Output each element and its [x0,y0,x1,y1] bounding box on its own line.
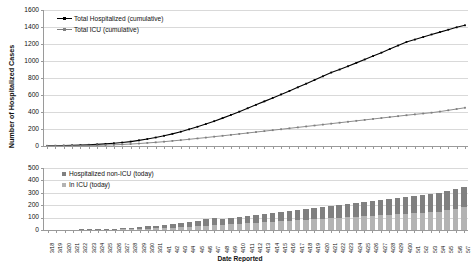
x-tick-mark [73,230,74,233]
stacked-bar [237,217,242,230]
data-point-marker [172,133,174,135]
data-point-marker [280,94,282,96]
legend-label: Total ICU (cumulative) [74,25,139,34]
data-point-marker [247,107,249,109]
bar-segment-non-icu [345,204,350,218]
bar-segment-non-icu [162,225,167,228]
x-tick-mark [289,146,290,149]
x-tick-mark [181,230,182,233]
stacked-bar [378,200,383,230]
bar-segment-in-icu [245,223,250,230]
x-tick-mark [415,146,416,149]
data-point-marker [339,122,341,124]
data-point-marker [355,62,357,64]
x-tick-mark [147,146,148,149]
x-tick-mark [131,230,132,233]
stacked-bar [203,219,208,230]
x-tick-mark [448,146,449,149]
x-tick-mark [364,230,365,233]
bar-segment-non-icu [145,226,150,228]
data-point-marker [456,108,458,110]
y-tick-label: 1000 [7,58,39,65]
x-tick-label: 3/29 [142,243,147,253]
x-tick-label: 3/28 [133,243,138,253]
data-point-marker [397,115,399,117]
stacked-bar [278,212,283,230]
x-tick-mark [331,146,332,149]
x-tick-mark [81,230,82,233]
bar-segment-in-icu [403,214,408,230]
data-point-marker [347,65,349,67]
bar-segment-in-icu [295,220,300,230]
x-tick-mark [140,230,141,233]
data-point-marker [289,90,291,92]
x-tick-mark [172,146,173,149]
bar-segment-in-icu [328,218,333,230]
y-axis-line [43,168,44,230]
x-tick-mark [406,146,407,149]
x-tick-label: 4/25 [366,243,371,253]
x-tick-label: 3/20 [67,243,72,253]
data-point-marker [397,45,399,47]
data-point-marker [213,136,215,138]
x-tick-mark [206,230,207,233]
data-point-marker [263,100,265,102]
bar-segment-non-icu [311,208,316,220]
y-tick-label: 200 [7,202,39,209]
x-tick-label: 4/8 [225,246,230,253]
y-tick-label: 600 [7,92,39,99]
data-point-marker [289,127,291,129]
x-tick-mark [331,230,332,233]
x-tick-mark [114,146,115,149]
bar-segment-non-icu [245,216,250,224]
x-tick-mark [456,230,457,233]
x-tick-mark [97,146,98,149]
x-tick-label: 4/21 [333,243,338,253]
bar-segment-in-icu [361,216,366,230]
x-tick-mark [464,230,465,233]
x-tick-mark [381,230,382,233]
x-tick-mark [264,230,265,233]
stacked-bar [178,223,183,230]
y-tick-label: 500 [7,165,39,172]
x-tick-mark [248,146,249,149]
stacked-bar [320,207,325,230]
x-tick-mark [315,146,316,149]
x-tick-mark [148,230,149,233]
bar-segment-non-icu [153,226,158,228]
x-tick-mark [165,230,166,233]
data-point-marker [138,143,140,145]
data-point-marker [464,24,466,26]
bar-segment-non-icu [436,193,441,212]
data-point-marker [230,114,232,116]
x-tick-mark [281,146,282,149]
data-point-marker [389,116,391,118]
bar-segment-in-icu [320,219,325,230]
x-tick-label: 4/16 [291,243,296,253]
data-point-marker [381,117,383,119]
data-point-marker [414,39,416,41]
stacked-bar [345,204,350,230]
x-tick-mark [65,230,66,233]
bar-segment-in-icu [278,221,283,230]
stacked-bar [187,222,192,230]
x-tick-mark [156,230,157,233]
data-point-marker [188,138,190,140]
data-point-marker [205,137,207,139]
x-tick-mark [306,230,307,233]
bar-segment-non-icu [137,227,142,229]
x-tick-mark [398,146,399,149]
bar-segment-non-icu [386,199,391,215]
stacked-bar [428,194,433,230]
x-tick-label: 4/14 [275,243,280,253]
bar-segment-in-icu [378,215,383,230]
data-point-marker [322,124,324,126]
bar-segment-non-icu [336,205,341,218]
stacked-bar [444,191,449,230]
x-tick-mark [239,230,240,233]
x-tick-mark [189,230,190,233]
data-point-marker [130,141,132,143]
data-point-marker [138,139,140,141]
stacked-bar [220,219,225,230]
bar-segment-non-icu [461,187,466,208]
